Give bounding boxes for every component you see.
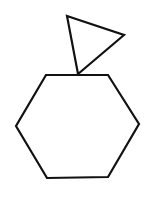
- diagram-canvas: [0, 0, 145, 198]
- hexagon-shape: [16, 75, 139, 178]
- triangle-shape: [67, 16, 124, 74]
